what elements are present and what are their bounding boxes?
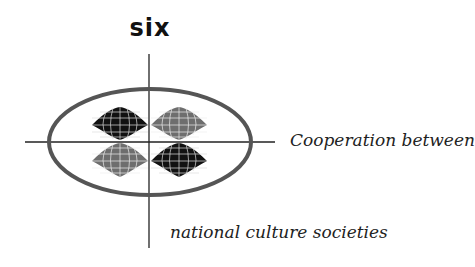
globe-diamond-bottom-right bbox=[151, 143, 207, 177]
globe-diamond-top-right bbox=[151, 107, 207, 140]
globe-diamond-top-left bbox=[92, 107, 148, 140]
globe-diamond-bottom-left bbox=[92, 143, 148, 177]
caption-line-2: national culture societies bbox=[170, 222, 388, 242]
caption-line-1: Cooperation between bbox=[290, 130, 475, 150]
